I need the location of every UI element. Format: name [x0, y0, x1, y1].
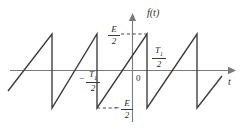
half-period-negative-sign: − — [79, 74, 84, 83]
amplitude-negative-label: E 2 — [121, 99, 133, 120]
half-period-negative-label: T1 2 — [86, 70, 100, 93]
y-axis-label: f(t) — [147, 8, 159, 18]
half-period-negative-numerator: T1 — [86, 70, 100, 81]
x-axis-label: t — [228, 77, 231, 87]
sawtooth-waveform-figure: f(t) t 0 E 2 − E 2 T1 2 − T1 2 — [0, 0, 243, 129]
origin-label: 0 — [136, 74, 141, 83]
amplitude-positive-label: E 2 — [108, 25, 120, 46]
amplitude-positive-denominator: 2 — [108, 37, 120, 46]
amplitude-negative-numerator: E — [121, 99, 133, 108]
amplitude-positive-numerator: E — [108, 25, 120, 34]
half-period-positive-denominator: 2 — [152, 60, 166, 69]
half-period-negative-denominator: 2 — [86, 84, 100, 93]
half-period-positive-label: T1 2 — [152, 46, 166, 69]
amplitude-negative-denominator: 2 — [121, 111, 133, 120]
half-period-positive-numerator: T1 — [152, 46, 166, 57]
amplitude-negative-sign: − — [114, 103, 119, 112]
